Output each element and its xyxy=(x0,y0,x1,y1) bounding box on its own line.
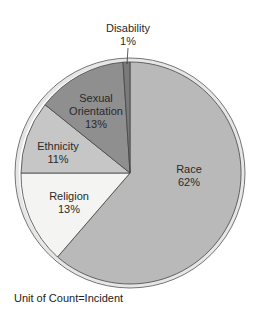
label-so-line2: Orientation xyxy=(64,105,128,118)
label-ethnicity-name: Ethnicity xyxy=(30,140,86,153)
label-disability-pct: 1% xyxy=(100,35,156,48)
unit-of-count-note: Unit of Count=Incident xyxy=(14,292,123,304)
label-ethnicity: Ethnicity 11% xyxy=(30,140,86,166)
label-race: Race 62% xyxy=(164,163,214,189)
label-disability: Disability 1% xyxy=(100,22,156,48)
label-race-pct: 62% xyxy=(164,176,214,189)
label-so-line1: Sexual xyxy=(64,92,128,105)
label-race-name: Race xyxy=(164,163,214,176)
label-religion-pct: 13% xyxy=(44,203,94,216)
label-disability-name: Disability xyxy=(100,22,156,35)
label-sexual-orientation: Sexual Orientation 13% xyxy=(64,92,128,131)
label-so-pct: 13% xyxy=(64,118,128,131)
label-religion-name: Religion xyxy=(44,190,94,203)
label-religion: Religion 13% xyxy=(44,190,94,216)
label-ethnicity-pct: 11% xyxy=(30,153,86,166)
